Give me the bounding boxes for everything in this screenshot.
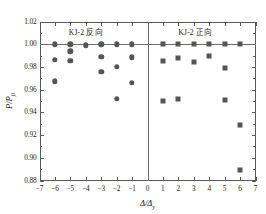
x-tick-mark [70, 22, 71, 26]
x-tick-label: 5 [223, 185, 227, 192]
x-tick-mark [194, 22, 195, 26]
data-point [160, 99, 165, 104]
x-tick-mark [101, 177, 102, 181]
x-tick-label: −4 [82, 185, 90, 192]
data-point [191, 42, 196, 47]
data-point [176, 96, 181, 101]
x-tick-label: −5 [66, 185, 74, 192]
data-point [160, 42, 165, 47]
x-tick-label: −3 [97, 185, 105, 192]
x-tick-label: −7 [36, 185, 44, 192]
x-tick-mark [178, 177, 179, 181]
x-tick-label: −2 [113, 185, 121, 192]
x-tick-mark [256, 22, 257, 26]
x-tick-mark [209, 177, 210, 181]
y-minor-tick-mark [253, 56, 256, 57]
x-tick-label: 0 [146, 185, 150, 192]
x-tick-mark [240, 177, 241, 181]
data-point [238, 123, 243, 128]
y-tick-label: 0.90 [24, 154, 36, 161]
x-tick-mark [86, 177, 87, 181]
x-tick-label: 3 [192, 185, 196, 192]
x-tick-mark [40, 22, 41, 26]
data-point [222, 42, 227, 47]
y-minor-tick-mark [40, 33, 43, 34]
annotation-forward: KJ-2 正向 [178, 26, 212, 37]
data-point [238, 42, 243, 47]
x-tick-mark [132, 22, 133, 26]
y-tick-mark [40, 90, 44, 91]
x-tick-label: 4 [207, 185, 211, 192]
data-point [160, 59, 165, 64]
y-tick-mark [252, 135, 256, 136]
y-tick-label: 1.00 [24, 41, 36, 48]
x-tick-mark [55, 177, 56, 181]
y-minor-tick-mark [40, 101, 43, 102]
x-tick-mark [225, 22, 226, 26]
y-tick-mark [252, 67, 256, 68]
y-tick-label: 0.94 [24, 109, 36, 116]
y-minor-tick-mark [253, 101, 256, 102]
data-point [222, 98, 227, 103]
data-point [207, 53, 212, 58]
data-point [191, 60, 196, 65]
x-tick-mark [178, 22, 179, 26]
y-tick-mark [40, 112, 44, 113]
x-tick-mark [117, 22, 118, 26]
y-tick-mark [40, 158, 44, 159]
x-tick-mark [117, 177, 118, 181]
y-axis-title: P/Pjl [4, 81, 16, 121]
x-tick-mark [55, 22, 56, 26]
scatter-chart: 0.880.900.920.940.960.981.001.02 −7−6−5−… [0, 0, 266, 214]
x-tick-label: 6 [238, 185, 242, 192]
y-minor-tick-mark [253, 33, 256, 34]
y-tick-mark [40, 67, 44, 68]
x-tick-mark [70, 177, 71, 181]
y-minor-tick-mark [253, 78, 256, 79]
y-tick-label: 1.02 [24, 18, 36, 25]
data-point [222, 66, 227, 71]
data-point [176, 42, 181, 47]
x-axis-title: Δ/Δy [140, 198, 155, 210]
y-minor-tick-mark [253, 124, 256, 125]
y-tick-mark [40, 135, 44, 136]
y-tick-mark [40, 181, 44, 182]
y-tick-mark [252, 90, 256, 91]
x-tick-mark [86, 22, 87, 26]
y-minor-tick-mark [253, 169, 256, 170]
y-axis-title-text: P/Pjl [4, 93, 14, 109]
x-tick-mark [225, 177, 226, 181]
y-tick-label: 0.98 [24, 63, 36, 70]
annotation-reverse: KJ-2 反向 [69, 26, 103, 37]
divider-line-zero [148, 22, 149, 181]
x-tick-mark [40, 177, 41, 181]
data-point [207, 42, 212, 47]
y-minor-tick-mark [40, 56, 43, 57]
x-tick-mark [240, 22, 241, 26]
data-point [176, 55, 181, 60]
x-tick-label: 2 [177, 185, 181, 192]
x-tick-label: −6 [51, 185, 59, 192]
x-tick-label: −1 [128, 185, 136, 192]
x-tick-mark [163, 177, 164, 181]
y-minor-tick-mark [40, 146, 43, 147]
y-minor-tick-mark [40, 124, 43, 125]
y-tick-label: 0.92 [24, 131, 36, 138]
x-tick-mark [209, 22, 210, 26]
y-minor-tick-mark [40, 78, 43, 79]
data-point [238, 168, 243, 173]
x-tick-label: 1 [161, 185, 165, 192]
y-tick-mark [252, 158, 256, 159]
y-minor-tick-mark [40, 169, 43, 170]
x-tick-mark [101, 22, 102, 26]
y-tick-mark [252, 112, 256, 113]
x-tick-label: 7 [254, 185, 258, 192]
x-tick-mark [256, 177, 257, 181]
y-minor-tick-mark [253, 146, 256, 147]
x-tick-mark [132, 177, 133, 181]
y-tick-mark [252, 181, 256, 182]
x-tick-mark [163, 22, 164, 26]
x-tick-mark [194, 177, 195, 181]
y-tick-label: 0.96 [24, 86, 36, 93]
